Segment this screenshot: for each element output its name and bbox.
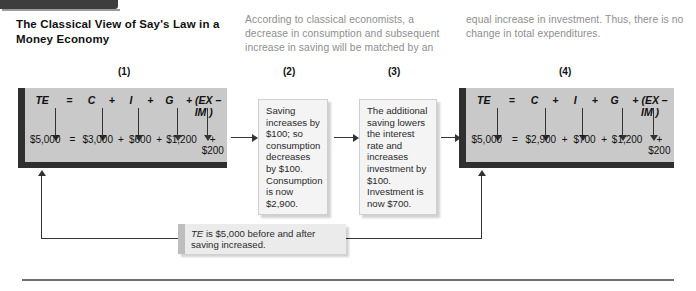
feedback-line-right [345, 238, 482, 239]
equation-box-4: TE = C + I + G + (EX – IM ) $5,000 = $2,… [459, 88, 674, 168]
down-arrow-icon-i-4 [582, 108, 583, 136]
eq4-sym-i: I [564, 94, 587, 106]
eq1-val-te: $5,000 [25, 134, 65, 145]
text-box-3: The additional saving lowers the interes… [359, 99, 437, 215]
eq4-val-plus-1: + [560, 134, 570, 145]
eq1-val-plus-2: + [154, 134, 164, 145]
eq1-sym-equals: = [59, 94, 79, 106]
eq4-sym-equals: = [501, 94, 522, 106]
equation-box-1-values: $5,000 = $3,000 + $600 + $1,200 + $200 [25, 134, 227, 156]
step-label-4: (4) [559, 66, 571, 77]
caption-column-left: According to classical economists, a dec… [245, 13, 455, 56]
equation-box-4-values: $5,000 = $2,900 + $700 + $1,200 + $200 [466, 134, 674, 156]
eq4-sym-te: TE [466, 94, 501, 106]
eq1-sym-c: C [80, 94, 104, 106]
right-arrow-icon-step1-to-step2 [231, 137, 252, 138]
eq4-val-equals: = [508, 134, 523, 145]
down-arrow-icon-te-4 [497, 108, 498, 136]
eq4-val-g: $1,200 [609, 134, 644, 145]
right-arrow-icon-step2-to-step3 [334, 137, 353, 138]
down-arrow-icon-netexports-4 [653, 108, 654, 136]
eq4-sym-plus-1: + [547, 94, 564, 106]
eq1-val-g: $1,200 [164, 134, 198, 145]
eq1-val-c: $3,000 [80, 134, 116, 145]
eq4-sym-plus-2: + [587, 94, 604, 106]
eq1-sym-plus-2: + [142, 94, 158, 106]
eq4-val-plus-2: + [599, 134, 609, 145]
eq4-val-i: $700 [570, 134, 599, 145]
eq1-val-plus-1: + [116, 134, 126, 145]
footer-callout: TE is $5,000 before and after saving inc… [178, 224, 346, 254]
eq1-sym-plus-1: + [104, 94, 120, 106]
down-arrow-icon-c-4 [545, 108, 546, 136]
down-arrow-icon-c-1 [102, 108, 103, 136]
down-arrow-icon-te-1 [55, 108, 56, 136]
text-box-2: Saving increases by $100; so consumption… [258, 99, 328, 215]
caption-column-right: equal increase in investment. Thus, ther… [466, 13, 684, 41]
down-arrow-icon-g-1 [177, 108, 178, 136]
step-label-3: (3) [388, 66, 400, 77]
footer-divider [22, 279, 674, 281]
down-arrow-icon-g-4 [622, 108, 623, 136]
eq1-val-netexports: + $200 [199, 134, 227, 156]
feedback-line-left [41, 238, 179, 239]
up-arrow-icon-feedback-right [481, 176, 482, 238]
footer-callout-emphasis: TE [191, 228, 203, 239]
eq4-sym-g: G [603, 94, 626, 106]
eq1-sym-g: G [158, 94, 180, 106]
eq4-val-te: $5,000 [466, 134, 508, 145]
figure-title: The Classical View of Say's Law in a Mon… [16, 17, 231, 47]
eq1-val-equals: = [65, 134, 79, 145]
eq4-val-c: $2,900 [522, 134, 559, 145]
down-arrow-icon-i-1 [138, 108, 139, 136]
eq4-val-netexports: + $200 [645, 134, 674, 156]
eq1-sym-i: I [120, 94, 142, 106]
eq1-val-i: $600 [126, 134, 154, 145]
up-arrow-icon-feedback-left [41, 176, 42, 238]
footer-callout-text: is $5,000 before and after saving increa… [191, 228, 315, 250]
top-corner-tab [0, 0, 118, 9]
eq4-sym-c: C [522, 94, 547, 106]
step-label-1: (1) [118, 66, 130, 77]
right-arrow-icon-step3-to-step4 [441, 137, 455, 138]
eq1-sym-te: TE [25, 94, 59, 106]
top-corner-tab-shadow [2, 9, 120, 11]
equation-box-1: TE = C + I + G + (EX – IM ) $5,000 = $3,… [18, 88, 227, 168]
down-arrow-icon-netexports-1 [207, 108, 208, 136]
step-label-2: (2) [283, 66, 295, 77]
